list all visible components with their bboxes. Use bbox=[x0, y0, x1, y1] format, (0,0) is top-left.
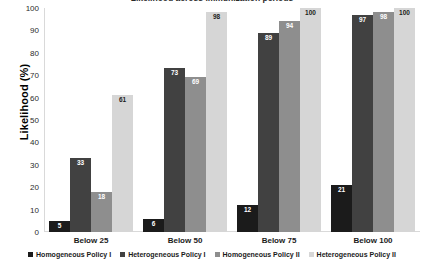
y-tick-label: 60 bbox=[30, 93, 39, 102]
y-tick-label: 80 bbox=[30, 48, 39, 57]
legend-label: Heterogeneous Policy I bbox=[128, 251, 205, 258]
bar-value-label: 61 bbox=[119, 97, 126, 104]
bar-groups: 53318616736998128994100219798100 bbox=[44, 8, 420, 232]
bar-value-label: 89 bbox=[265, 35, 272, 42]
x-axis-label: Below 100 bbox=[326, 236, 420, 245]
bar-value-label: 6 bbox=[152, 221, 156, 228]
x-axis-label: Below 25 bbox=[44, 236, 138, 245]
bar-value-label: 100 bbox=[399, 10, 410, 17]
bar[interactable]: 61 bbox=[112, 95, 133, 232]
bar[interactable]: 33 bbox=[70, 158, 91, 232]
bar[interactable]: 6 bbox=[143, 219, 164, 232]
bar-value-label: 100 bbox=[305, 10, 316, 17]
legend-swatch-icon bbox=[215, 252, 220, 257]
bar[interactable]: 100 bbox=[300, 8, 321, 232]
legend-item[interactable]: Heterogeneous Policy II bbox=[309, 251, 396, 258]
bar-value-label: 5 bbox=[58, 223, 62, 230]
bar[interactable]: 18 bbox=[91, 192, 112, 232]
bar-value-label: 33 bbox=[77, 160, 84, 167]
bar-value-label: 98 bbox=[380, 14, 387, 21]
bar-group: 6736998 bbox=[138, 8, 232, 232]
y-tick-label: 0 bbox=[35, 228, 39, 237]
bar-value-label: 69 bbox=[192, 79, 199, 86]
chart-title: Likelihood across immunization periods bbox=[0, 0, 424, 3]
bar[interactable]: 98 bbox=[373, 12, 394, 232]
bar[interactable]: 21 bbox=[331, 185, 352, 232]
chart-legend: Homogeneous Policy IHeterogeneous Policy… bbox=[0, 251, 424, 258]
y-tick-label: 50 bbox=[30, 116, 39, 125]
y-tick-label: 90 bbox=[30, 26, 39, 35]
bar[interactable]: 73 bbox=[164, 68, 185, 232]
bar[interactable]: 69 bbox=[185, 77, 206, 232]
bar-group: 5331861 bbox=[44, 8, 138, 232]
legend-item[interactable]: Heterogeneous Policy I bbox=[120, 251, 205, 258]
x-axis-label: Below 50 bbox=[138, 236, 232, 245]
bar-value-label: 97 bbox=[359, 17, 366, 24]
y-tick-label: 20 bbox=[30, 183, 39, 192]
bar-chart: Likelihood across immunization periods L… bbox=[0, 0, 424, 264]
y-tick-label: 70 bbox=[30, 71, 39, 80]
legend-item[interactable]: Homogeneous Policy I bbox=[28, 251, 111, 258]
legend-item[interactable]: Homogeneous Policy II bbox=[215, 251, 300, 258]
bar[interactable]: 94 bbox=[279, 21, 300, 232]
y-tick-label: 30 bbox=[30, 160, 39, 169]
plot-area: 1009080706050403020100 53318616736998128… bbox=[44, 8, 420, 232]
bar-value-label: 98 bbox=[213, 14, 220, 21]
bar-value-label: 94 bbox=[286, 23, 293, 30]
bar[interactable]: 100 bbox=[394, 8, 415, 232]
y-tick-label: 40 bbox=[30, 138, 39, 147]
legend-swatch-icon bbox=[28, 252, 33, 257]
bar-group: 128994100 bbox=[232, 8, 326, 232]
bar-value-label: 21 bbox=[338, 187, 345, 194]
bar-value-label: 18 bbox=[98, 194, 105, 201]
legend-swatch-icon bbox=[309, 252, 314, 257]
bar[interactable]: 97 bbox=[352, 15, 373, 232]
bar-value-label: 73 bbox=[171, 70, 178, 77]
x-axis-labels: Below 25Below 50Below 75Below 100 bbox=[44, 236, 420, 245]
bar-value-label: 12 bbox=[244, 207, 251, 214]
bar[interactable]: 5 bbox=[49, 221, 70, 232]
y-tick-label: 100 bbox=[26, 4, 39, 13]
x-axis-label: Below 75 bbox=[232, 236, 326, 245]
legend-swatch-icon bbox=[120, 252, 125, 257]
bar[interactable]: 98 bbox=[206, 12, 227, 232]
y-axis-title: Likelihood (%) bbox=[18, 32, 30, 172]
bar[interactable]: 89 bbox=[258, 33, 279, 232]
y-tick-label: 10 bbox=[30, 205, 39, 214]
legend-label: Homogeneous Policy II bbox=[223, 251, 300, 258]
legend-label: Homogeneous Policy I bbox=[36, 251, 111, 258]
bar-group: 219798100 bbox=[326, 8, 420, 232]
bar[interactable]: 12 bbox=[237, 205, 258, 232]
legend-label: Heterogeneous Policy II bbox=[317, 251, 396, 258]
